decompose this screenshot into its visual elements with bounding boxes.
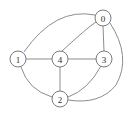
node-label-2: 2 [58, 95, 63, 105]
graph-edge-4-0 [62, 22, 96, 51]
graph-edge-1-2 [21, 67, 52, 97]
node-label-4: 4 [58, 55, 63, 65]
graph-canvas: 01234 [0, 0, 133, 117]
graph-figure: 01234 [0, 0, 133, 117]
graph-edge-0-3 [103, 26, 104, 51]
node-label-0: 0 [101, 14, 106, 24]
graph-node-4[interactable]: 4 [52, 51, 68, 67]
graph-node-2[interactable]: 2 [52, 91, 68, 107]
graph-edge-3-2 [68, 66, 101, 97]
node-label-3: 3 [102, 55, 107, 65]
node-layer: 01234 [10, 10, 112, 107]
graph-edge-0-2 [68, 23, 123, 101]
graph-node-0[interactable]: 0 [95, 10, 111, 26]
graph-edge-1-0 [24, 14, 95, 52]
graph-node-3[interactable]: 3 [96, 51, 112, 67]
graph-node-1[interactable]: 1 [10, 51, 26, 67]
node-label-1: 1 [16, 55, 21, 65]
